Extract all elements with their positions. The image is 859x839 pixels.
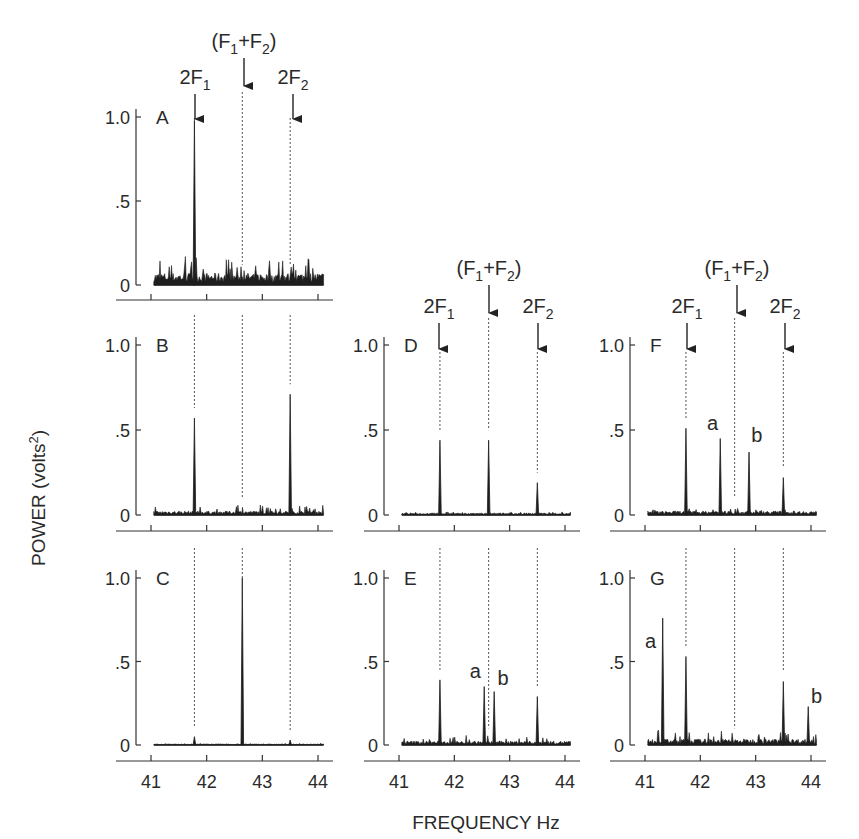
panel-label-a: A xyxy=(156,107,169,128)
peak-2f1 xyxy=(685,656,688,745)
y-tick-label: 0 xyxy=(368,736,378,756)
panel-b: 0.51.0B xyxy=(105,315,333,531)
annotation-a: a xyxy=(707,412,719,434)
marker-header-f: 2F1(F1+F2)2F2 xyxy=(671,257,800,349)
y-tick-label: 1.0 xyxy=(599,336,624,356)
power-spectrum-trace xyxy=(402,735,571,745)
panel-f: 0.51.0Fab xyxy=(599,318,826,531)
annotation-a: a xyxy=(470,660,482,682)
x-tick-label: 44 xyxy=(308,772,328,792)
panel-a: 0.51.0A xyxy=(105,92,333,300)
panel-label-e: E xyxy=(404,568,417,589)
annotation-b: b xyxy=(751,424,762,446)
peak-f1-plus-f2 xyxy=(241,578,244,745)
y-tick-label: .5 xyxy=(363,653,378,673)
x-tick-label: 42 xyxy=(690,772,710,792)
y-tick-label: 1.0 xyxy=(105,336,130,356)
label-f1-plus-f2: (F1+F2) xyxy=(456,257,521,284)
panel-d: 0.51.0D xyxy=(353,318,580,531)
y-tick-label: 0 xyxy=(120,506,130,526)
x-tick-label: 43 xyxy=(252,772,272,792)
peak-2f1 xyxy=(439,680,442,745)
peak-b xyxy=(493,692,496,745)
label-2f2: 2F2 xyxy=(769,295,800,322)
x-tick-label: 43 xyxy=(500,772,520,792)
peak-2f2 xyxy=(536,697,539,745)
label-2f2: 2F2 xyxy=(277,66,308,93)
x-tick-label: 42 xyxy=(197,772,217,792)
y-tick-label: 0 xyxy=(614,736,624,756)
annotation-b: b xyxy=(811,685,822,707)
y-tick-label: .5 xyxy=(115,653,130,673)
y-tick-label: 1.0 xyxy=(105,569,130,589)
peak-2f1 xyxy=(193,120,196,285)
panel-label-c: C xyxy=(156,568,170,589)
label-f1-plus-f2: (F1+F2) xyxy=(704,257,769,284)
peak-2f2 xyxy=(782,478,785,515)
spectra-figure: POWER (volts2) FREQUENCY Hz 0.51.0A0.51.… xyxy=(0,0,859,839)
peak-2f1 xyxy=(193,418,196,515)
x-tick-label: 41 xyxy=(635,772,655,792)
peak-a xyxy=(661,618,664,745)
x-tick-label: 41 xyxy=(389,772,409,792)
peak-2f1 xyxy=(439,440,442,515)
peak-2f2 xyxy=(289,394,292,515)
power-spectrum-trace xyxy=(154,505,324,515)
panel-label-f: F xyxy=(650,335,662,356)
peak-2f2 xyxy=(782,682,785,745)
panel-label-g: G xyxy=(650,568,665,589)
panel-c: 0.51.0C41424344 xyxy=(105,548,333,792)
peak-f1-plus-f2 xyxy=(487,440,490,515)
peak-a xyxy=(483,687,486,745)
y-tick-label: 0 xyxy=(614,506,624,526)
panel-g: 0.51.0G41424344ab xyxy=(599,548,826,792)
peak-2f1 xyxy=(193,737,196,745)
y-tick-label: 0 xyxy=(120,736,130,756)
peak-2f2 xyxy=(289,740,292,745)
peak-b xyxy=(807,707,810,745)
y-axis-label: POWER (volts2) xyxy=(26,430,49,566)
x-axis-label: FREQUENCY Hz xyxy=(412,812,559,833)
y-tick-label: 1.0 xyxy=(105,108,130,128)
panel-label-d: D xyxy=(404,335,418,356)
y-tick-label: 0 xyxy=(120,276,130,296)
label-2f1: 2F1 xyxy=(423,295,454,322)
panel-e: 0.51.0E41424344ab xyxy=(353,548,580,792)
y-tick-label: 0 xyxy=(368,506,378,526)
peak-2f2 xyxy=(536,483,539,515)
y-tick-label: 1.0 xyxy=(353,569,378,589)
power-spectrum-trace xyxy=(648,508,817,515)
label-2f2: 2F2 xyxy=(522,295,553,322)
x-tick-label: 41 xyxy=(141,772,161,792)
peak-b xyxy=(748,452,751,515)
power-spectrum-trace xyxy=(154,257,324,286)
y-tick-label: .5 xyxy=(609,421,624,441)
label-2f1: 2F1 xyxy=(671,295,702,322)
x-tick-label: 42 xyxy=(444,772,464,792)
y-tick-label: 1.0 xyxy=(599,569,624,589)
label-2f1: 2F1 xyxy=(179,66,210,93)
y-tick-label: .5 xyxy=(115,192,130,212)
y-tick-label: .5 xyxy=(363,421,378,441)
annotation-a: a xyxy=(645,630,657,652)
panel-label-b: B xyxy=(156,335,169,356)
annotation-b: b xyxy=(497,667,508,689)
peak-2f1 xyxy=(685,428,688,515)
x-tick-label: 44 xyxy=(555,772,575,792)
peak-a xyxy=(719,439,722,516)
label-f1-plus-f2: (F1+F2) xyxy=(211,30,276,57)
y-tick-label: .5 xyxy=(609,653,624,673)
power-spectrum-trace xyxy=(648,730,817,745)
marker-header-a: 2F1(F1+F2)2F2 xyxy=(179,30,308,119)
x-tick-label: 43 xyxy=(746,772,766,792)
y-tick-label: .5 xyxy=(115,421,130,441)
x-tick-label: 44 xyxy=(801,772,821,792)
y-tick-label: 1.0 xyxy=(353,336,378,356)
